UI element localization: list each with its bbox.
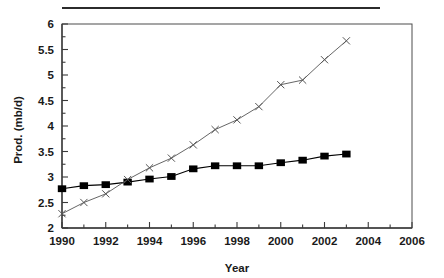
x-tick-label: 2000	[268, 235, 294, 247]
x-axis-tick-labels: 199019921994199619982000200220042006	[49, 235, 425, 247]
data-point-marker	[58, 185, 66, 192]
data-point-marker	[342, 151, 350, 158]
x-tick-label: 1990	[49, 235, 75, 247]
chart-figure: 199019921994199619982000200220042006 22.…	[0, 0, 444, 278]
y-tick-label: 3.5	[38, 146, 55, 158]
x-tick-label: 1992	[93, 235, 119, 247]
y-tick-label: 2	[48, 222, 54, 234]
production-line-chart: 199019921994199619982000200220042006 22.…	[0, 0, 444, 278]
x-tick-label: 2002	[312, 235, 338, 247]
x-tick-label: 1998	[224, 235, 250, 247]
y-tick-label: 2.5	[38, 197, 55, 209]
y-tick-label: 6	[48, 18, 54, 30]
data-point-marker	[298, 157, 306, 164]
x-tick-label: 2004	[355, 235, 381, 247]
data-point-marker	[189, 165, 197, 172]
data-point-marker	[233, 162, 241, 169]
x-tick-label: 1996	[180, 235, 206, 247]
x-tick-label: 2006	[399, 235, 425, 247]
data-point-marker	[167, 173, 175, 180]
data-point-marker	[255, 162, 263, 169]
data-point-marker	[211, 162, 219, 169]
data-point-marker	[320, 153, 328, 160]
data-point-marker	[145, 176, 153, 183]
x-tick-label: 1994	[137, 235, 163, 247]
y-tick-label: 3	[48, 171, 54, 183]
data-point-marker	[80, 182, 88, 189]
y-axis-title: Prod. (mb/d)	[12, 96, 24, 164]
y-tick-label: 5	[48, 69, 55, 81]
y-tick-label: 4.5	[38, 95, 55, 107]
data-point-marker	[102, 181, 110, 188]
y-tick-label: 4	[48, 120, 55, 132]
data-point-marker	[277, 159, 285, 166]
y-tick-label: 5.5	[38, 44, 55, 56]
x-axis-title: Year	[225, 262, 250, 274]
